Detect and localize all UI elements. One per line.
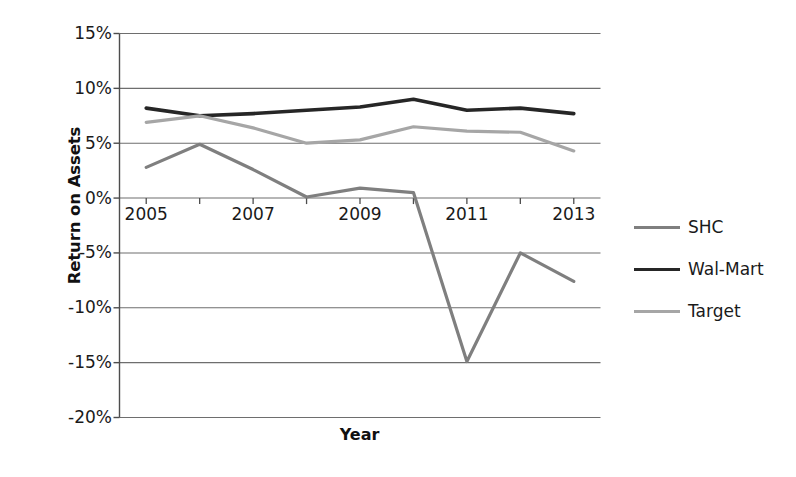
chart-legend: SHCWal-MartTarget xyxy=(634,206,794,332)
legend-line-swatch xyxy=(634,310,680,313)
legend-line-swatch xyxy=(634,226,680,229)
legend-item-shc[interactable]: SHC xyxy=(634,206,794,248)
legend-label: Wal-Mart xyxy=(688,259,764,279)
legend-line-swatch xyxy=(634,268,680,271)
x-tick-label: 2013 xyxy=(544,206,604,223)
x-tick-label: 2007 xyxy=(223,206,283,223)
x-tick-label: 2005 xyxy=(116,206,176,223)
legend-item-target[interactable]: Target xyxy=(634,290,794,332)
legend-item-wal-mart[interactable]: Wal-Mart xyxy=(634,248,794,290)
chart-figure: Return on Assets Year 15%10%5%0%-5%-10%-… xyxy=(0,0,796,477)
legend-label: Target xyxy=(688,301,741,321)
legend-label: SHC xyxy=(688,217,723,237)
x-tick-label: 2011 xyxy=(437,206,497,223)
x-tick-label: 2009 xyxy=(330,206,390,223)
